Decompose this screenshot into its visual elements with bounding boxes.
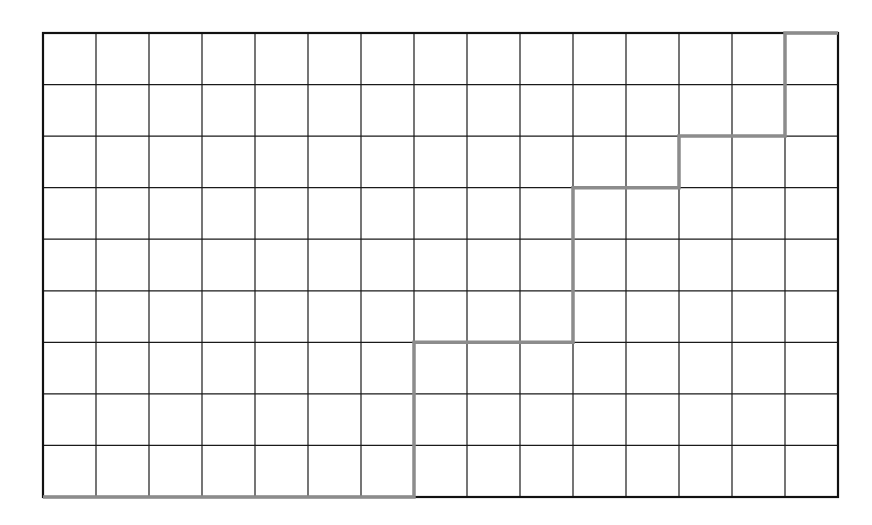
grid-border [43, 33, 838, 497]
grid-lines [43, 33, 838, 497]
staircase-path [43, 33, 838, 497]
grid-diagram [0, 0, 872, 525]
